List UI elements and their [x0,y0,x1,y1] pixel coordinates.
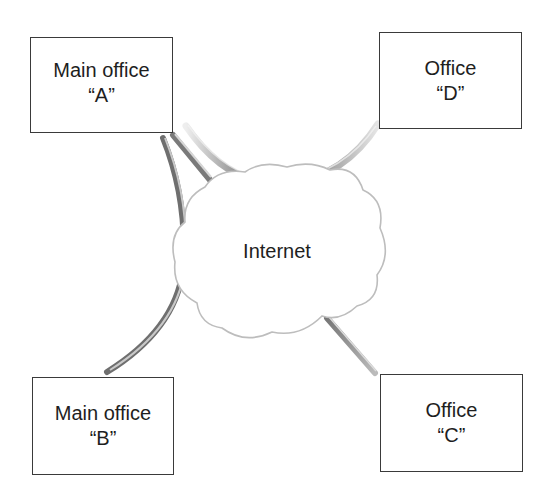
node-office-c: Office “C” [380,374,523,472]
node-id: “B” [90,426,117,451]
node-id: “C” [438,423,466,448]
node-id: “A” [88,83,115,108]
node-title: Main office [55,401,151,426]
node-title: Office [425,56,477,81]
network-diagram: Main office “A” Office “D” Main office “… [0,0,551,501]
internet-label: Internet [215,240,339,263]
link-a-b [107,138,184,372]
node-main-office-b: Main office “B” [32,377,174,475]
node-id: “D” [437,81,465,106]
node-title: Office [426,398,478,423]
link-a-internet [173,135,210,180]
node-main-office-a: Main office “A” [30,37,173,133]
node-office-d: Office “D” [379,32,522,129]
node-title: Main office [53,58,149,83]
link-internet-c [327,318,375,373]
